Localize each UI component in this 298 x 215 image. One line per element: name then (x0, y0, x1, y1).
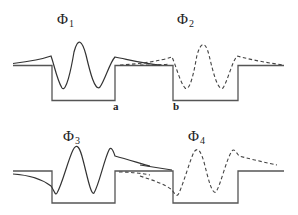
svg-text:Φ: Φ (63, 128, 74, 144)
wavefunction-phi4 (140, 150, 277, 196)
potential-bottom (13, 171, 284, 203)
wavefunction-phi3 (13, 146, 150, 193)
svg-text:Φ: Φ (188, 128, 199, 144)
svg-text:2: 2 (189, 18, 194, 29)
point-label-a: a (113, 100, 119, 112)
svg-text:Φ: Φ (177, 11, 188, 27)
phi3-overlap-left (140, 165, 172, 170)
label-phi1: Φ 1 (57, 11, 74, 29)
svg-text:3: 3 (75, 135, 80, 146)
potential-top (13, 66, 284, 101)
label-phi4: Φ 4 (188, 128, 205, 146)
point-label-b: b (173, 100, 179, 112)
svg-text:4: 4 (200, 135, 205, 146)
label-phi2: Φ 2 (177, 11, 194, 29)
wavefunction-phi3-tail (119, 172, 150, 175)
double-well-diagram: Φ 1 Φ 2 a b Φ 3 Φ 4 (0, 0, 298, 215)
wavefunction-phi2 (120, 44, 284, 88)
svg-text:1: 1 (69, 18, 74, 29)
svg-text:Φ: Φ (57, 11, 68, 27)
label-phi3: Φ 3 (63, 128, 80, 146)
